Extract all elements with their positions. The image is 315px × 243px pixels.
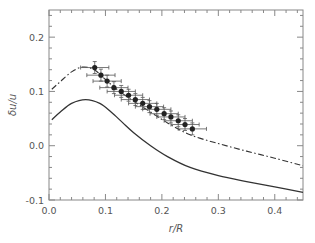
data-marker bbox=[126, 93, 131, 98]
x-tick-label: 0.0 bbox=[41, 205, 56, 216]
x-tick-label: 0.4 bbox=[267, 205, 282, 216]
x-axis-label: r/R bbox=[169, 223, 183, 234]
y-tick-label: -0.1 bbox=[25, 195, 44, 206]
data-marker bbox=[98, 73, 103, 78]
data-marker bbox=[140, 101, 145, 106]
plot-border bbox=[49, 10, 303, 200]
data-marker bbox=[133, 97, 138, 102]
axis-ticks bbox=[49, 10, 303, 200]
chart: 0.00.10.20.30.4-0.10.00.10.2 r/R δu/u bbox=[0, 0, 315, 243]
data-point bbox=[93, 75, 121, 87]
x-tick-label: 0.3 bbox=[211, 205, 226, 216]
y-tick-label: 0.0 bbox=[29, 140, 44, 151]
series-layer bbox=[52, 62, 303, 193]
dash-dot-curve bbox=[52, 67, 303, 166]
data-marker bbox=[105, 79, 110, 84]
data-point bbox=[81, 62, 109, 74]
y-tick-label: 0.1 bbox=[29, 86, 44, 97]
plot-frame bbox=[49, 10, 303, 200]
data-point bbox=[87, 69, 115, 81]
data-marker bbox=[111, 85, 116, 90]
data-point bbox=[135, 101, 163, 113]
data-marker bbox=[190, 126, 195, 131]
y-axis-label: δu/u bbox=[7, 94, 18, 116]
data-marker bbox=[119, 89, 124, 94]
x-tick-label: 0.2 bbox=[154, 205, 169, 216]
data-marker bbox=[168, 114, 173, 119]
axis-tick-labels: 0.00.10.20.30.4-0.10.00.10.2 bbox=[25, 32, 282, 216]
y-tick-label: 0.2 bbox=[29, 32, 44, 43]
x-tick-label: 0.1 bbox=[98, 205, 113, 216]
data-marker bbox=[147, 104, 152, 109]
data-marker bbox=[154, 107, 159, 112]
data-marker bbox=[182, 122, 187, 127]
data-marker bbox=[176, 118, 181, 123]
data-marker bbox=[92, 65, 97, 70]
data-marker bbox=[162, 111, 167, 116]
